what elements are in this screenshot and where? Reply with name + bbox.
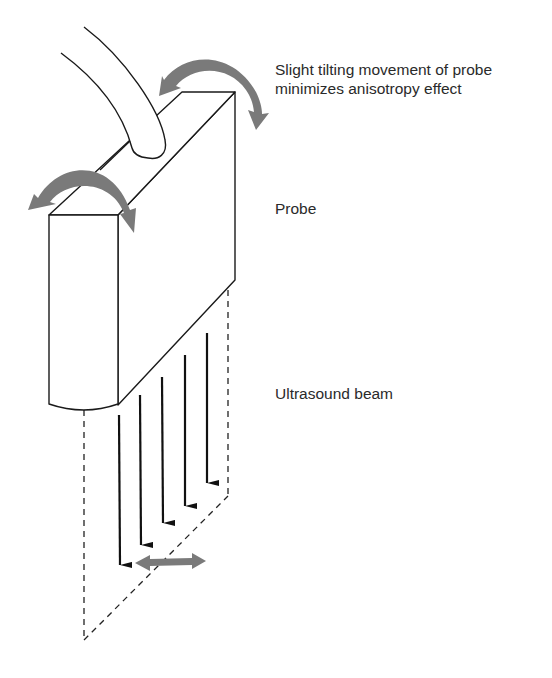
tilt-label: Slight tilting movement of probe minimiz… [275, 60, 492, 98]
beam-arrow-1 [119, 415, 120, 565]
tilt-label-line1: Slight tilting movement of probe [275, 60, 492, 79]
probe-diagram [0, 0, 552, 678]
beam-arrow-2 [140, 395, 141, 545]
beam-arrow-3 [162, 377, 163, 523]
beam-label: Ultrasound beam [275, 384, 393, 403]
tilt-label-line2: minimizes anisotropy effect [275, 79, 492, 98]
probe-cable-icon [61, 27, 166, 158]
probe-label: Probe [275, 199, 316, 218]
lateral-move-arrow-icon [135, 553, 206, 571]
